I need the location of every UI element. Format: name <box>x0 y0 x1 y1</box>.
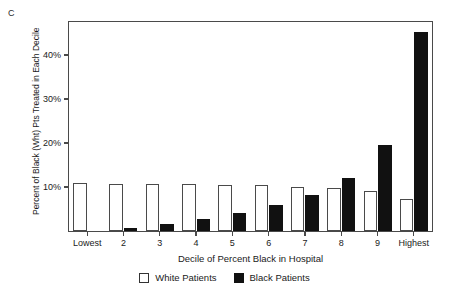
y-tick-label: 30% <box>43 93 61 105</box>
bar-highest-black <box>414 32 428 231</box>
y-tick-mark <box>64 54 69 55</box>
x-tick-mark <box>232 231 233 236</box>
y-tick-label: 40% <box>43 49 61 61</box>
y-tick-mark <box>64 186 69 187</box>
bar-6-black <box>269 205 283 231</box>
legend-label: White Patients <box>155 272 216 283</box>
legend-item-white: White Patients <box>139 272 216 283</box>
bar-5-black <box>233 213 247 231</box>
bar-9-white <box>364 191 378 231</box>
chart-legend: White PatientsBlack Patients <box>0 272 449 283</box>
y-tick-label: 10% <box>43 181 61 193</box>
legend-label: Black Patients <box>250 272 310 283</box>
x-tick-mark <box>341 231 342 236</box>
bar-8-white <box>327 188 341 231</box>
y-tick-label: 20% <box>43 137 61 149</box>
x-axis-title: Decile of Percent Black in Hospital <box>68 253 433 264</box>
x-tick-mark <box>87 231 88 236</box>
bar-highest-white <box>400 199 414 231</box>
x-tick-label: Highest <box>374 238 449 249</box>
legend-item-black: Black Patients <box>234 272 310 283</box>
bar-2-white <box>109 184 123 231</box>
legend-swatch-black-icon <box>234 273 244 283</box>
plot-area: 10%20%30%40% Lowest23456789Highest <box>68 21 433 232</box>
x-tick-mark <box>195 231 196 236</box>
bar-9-black <box>378 145 392 231</box>
bar-7-black <box>305 195 319 231</box>
bar-7-white <box>291 187 305 231</box>
bar-lowest-white <box>73 183 87 231</box>
x-tick-mark <box>123 231 124 236</box>
x-tick-mark <box>413 231 414 236</box>
bar-5-white <box>218 185 232 231</box>
y-tick-mark <box>64 142 69 143</box>
legend-swatch-white-icon <box>139 273 149 283</box>
bar-2-black <box>124 228 138 231</box>
bar-4-black <box>197 219 211 231</box>
x-tick-mark <box>268 231 269 236</box>
bar-6-white <box>255 185 269 231</box>
bar-3-white <box>146 184 160 231</box>
x-tick-mark <box>377 231 378 236</box>
bar-8-black <box>342 178 356 231</box>
x-tick-mark <box>304 231 305 236</box>
bar-4-white <box>182 184 196 231</box>
x-tick-mark <box>159 231 160 236</box>
y-axis-title: Percent of Black (Wht) Pts Treated in Ea… <box>32 6 41 236</box>
panel-label: C <box>8 9 15 18</box>
y-tick-mark <box>64 98 69 99</box>
bar-3-black <box>160 224 174 231</box>
